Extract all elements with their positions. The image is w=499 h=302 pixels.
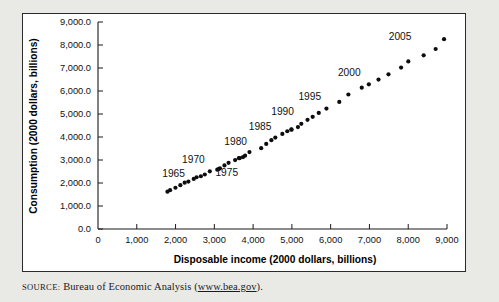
data-point [273, 135, 277, 139]
data-point-series [165, 37, 446, 194]
data-point [299, 122, 303, 126]
data-point [296, 125, 300, 129]
data-point [434, 47, 438, 51]
data-point [194, 175, 198, 179]
data-point [289, 128, 293, 132]
y-tick-label: 6,000.0 [60, 86, 91, 96]
data-point [386, 72, 390, 76]
y-tick-label: 2,000.0 [60, 178, 91, 188]
x-axis-ticks [137, 224, 447, 229]
year-annotation: 2000 [338, 67, 361, 78]
data-point [199, 174, 203, 178]
year-annotations: 196519701975198019851990199520002005 [162, 31, 411, 178]
data-point [406, 59, 410, 63]
source-url-link[interactable]: www.bea.gov [198, 281, 257, 292]
x-tick-label: 8,000 [397, 235, 420, 245]
y-tick-label: 7,000.0 [60, 63, 91, 73]
x-tick-label: 0 [95, 235, 100, 245]
data-point [226, 161, 230, 165]
x-axis-title: Disposable income (2000 dollars, billion… [174, 254, 377, 265]
y-axis-tick-labels: 0.01,000.02,000.03,000.04,000.05,000.06,… [60, 17, 91, 234]
y-tick-label: 1,000.0 [60, 201, 91, 211]
y-axis-title: Consumption (2000 dollars, billions) [28, 38, 39, 213]
year-annotation: 1995 [298, 91, 321, 102]
data-point [280, 132, 284, 136]
y-tick-label: 9,000.0 [60, 17, 91, 27]
data-point [360, 86, 364, 90]
data-point [399, 65, 403, 69]
y-tick-label: 8,000.0 [60, 40, 91, 50]
data-point [208, 169, 212, 173]
data-point [367, 82, 371, 86]
source-caption: SOURCE: Bureau of Economic Analysis (www… [22, 281, 263, 292]
data-point [178, 183, 182, 187]
year-annotation: 1990 [271, 106, 294, 117]
data-point [311, 115, 315, 119]
source-caption-tail: ). [257, 281, 263, 292]
data-point [203, 172, 207, 176]
data-point [173, 186, 177, 190]
data-point [305, 118, 309, 122]
data-point [422, 53, 426, 57]
x-tick-label: 9,000 [435, 235, 458, 245]
data-point [317, 111, 321, 115]
year-annotation: 1970 [182, 154, 205, 165]
y-tick-label: 5,000.0 [60, 109, 91, 119]
data-point [247, 150, 251, 154]
y-tick-label: 4,000.0 [60, 132, 91, 142]
x-tick-label: 4,000 [241, 235, 264, 245]
source-caption-text: Bureau of Economic Analysis ( [60, 281, 197, 292]
figure-panel: 0.01,000.02,000.03,000.04,000.05,000.06,… [22, 13, 466, 272]
x-tick-label: 3,000 [203, 235, 226, 245]
data-point [376, 78, 380, 82]
y-tick-label: 0.0 [78, 224, 91, 234]
data-point [285, 129, 289, 133]
data-point [259, 146, 263, 150]
data-point [186, 179, 190, 183]
x-axis-tick-labels: 01,0002,0003,0004,0005,0006,0007,0008,00… [95, 235, 458, 245]
x-tick-label: 5,000 [280, 235, 303, 245]
data-point [324, 106, 328, 110]
y-axis-ticks [98, 22, 103, 229]
data-point [442, 37, 446, 41]
data-point [264, 142, 268, 146]
data-point [269, 138, 273, 142]
data-point [243, 154, 247, 158]
data-point [183, 181, 187, 185]
year-annotation: 1980 [224, 136, 247, 147]
x-tick-label: 7,000 [358, 235, 381, 245]
x-tick-label: 1,000 [125, 235, 148, 245]
y-tick-label: 3,000.0 [60, 155, 91, 165]
data-point [233, 158, 237, 162]
source-caption-label: SOURCE: [22, 282, 60, 292]
year-annotation: 1965 [162, 168, 185, 179]
consumption-vs-income-scatter-chart: 0.01,000.02,000.03,000.04,000.05,000.06,… [23, 14, 465, 271]
data-point [337, 100, 341, 104]
data-point [346, 92, 350, 96]
year-annotation: 1985 [249, 121, 272, 132]
x-tick-label: 6,000 [319, 235, 342, 245]
x-tick-label: 2,000 [164, 235, 187, 245]
data-point [168, 188, 172, 192]
year-annotation: 1975 [215, 167, 238, 178]
year-annotation: 2005 [389, 31, 412, 42]
